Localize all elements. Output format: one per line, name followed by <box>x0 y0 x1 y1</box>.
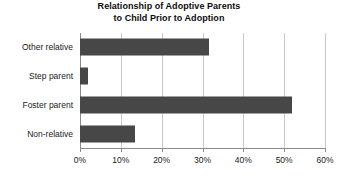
x-tick-30% <box>203 148 204 152</box>
bar-chart: Relationship of Adoptive Parents to Chil… <box>0 0 338 179</box>
chart-title-line-1: Relationship of Adoptive Parents <box>0 1 338 13</box>
category-label: Foster parent <box>22 100 76 110</box>
category-label: Step parent <box>29 71 76 81</box>
x-tick-20% <box>162 148 163 152</box>
category-label: Other relative <box>22 42 76 52</box>
x-tick-0% <box>80 148 81 152</box>
x-tick-label: 40% <box>223 155 263 165</box>
bar-row <box>80 62 325 91</box>
x-tick-label: 60% <box>305 155 338 165</box>
bar-row <box>80 33 325 62</box>
x-tick-label: 10% <box>101 155 141 165</box>
bar-other-relative <box>80 39 209 56</box>
bar-step-parent <box>80 68 88 85</box>
bar-non-relative <box>80 125 135 142</box>
bar-foster-parent <box>80 96 292 113</box>
category-label-slot: Foster parent <box>0 91 76 120</box>
category-label-slot: Non-relative <box>0 119 76 148</box>
x-tick-label: 30% <box>183 155 223 165</box>
x-tick-10% <box>121 148 122 152</box>
bar-row <box>80 119 325 148</box>
category-label: Non-relative <box>27 129 76 139</box>
chart-title-line-2: to Child Prior to Adoption <box>0 13 338 25</box>
x-tick-50% <box>284 148 285 152</box>
chart-title: Relationship of Adoptive Parents to Chil… <box>0 1 338 24</box>
category-label-slot: Step parent <box>0 62 76 91</box>
y-axis-category-labels: Other relativeStep parentFoster parentNo… <box>0 33 76 148</box>
bar-row <box>80 91 325 120</box>
x-tick-label: 20% <box>142 155 182 165</box>
x-tick-60% <box>325 148 326 152</box>
x-tick-40% <box>243 148 244 152</box>
x-tick-label: 50% <box>264 155 304 165</box>
gridline-60% <box>325 33 326 148</box>
plot-area <box>80 33 325 148</box>
x-tick-label: 0% <box>60 155 100 165</box>
category-label-slot: Other relative <box>0 33 76 62</box>
